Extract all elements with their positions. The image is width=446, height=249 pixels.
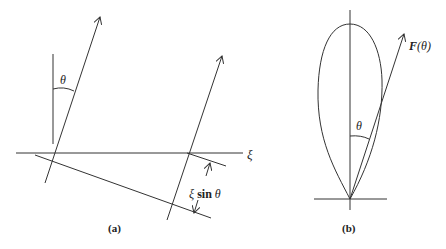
offset-sin: sin: [197, 187, 212, 201]
theta-label-b: θ: [356, 120, 362, 132]
wavefront-line: [35, 155, 211, 218]
F-argument: (θ): [417, 39, 431, 53]
dimension-arrow-up: [206, 163, 210, 176]
offset-label: ξ sin θ: [189, 188, 221, 200]
theta-arc-b: [350, 136, 369, 139]
wavefront-parallel-segment: [187, 153, 226, 166]
caption-a: (a): [108, 223, 121, 234]
F-theta-label: F(θ): [409, 40, 431, 52]
diagram-root: θ ξ ξ sin θ (a) θ F(θ) (b): [0, 0, 446, 249]
offset-xi: ξ: [189, 187, 194, 201]
xi-axis-label: ξ: [247, 148, 253, 161]
theta-label-a: θ: [60, 74, 66, 86]
offset-theta: θ: [215, 187, 221, 201]
F-theta-ray: [350, 34, 404, 199]
theta-arc-a: [53, 88, 74, 91]
dimension-arrow-down: [194, 200, 198, 213]
diagram-canvas: [0, 0, 446, 249]
F-symbol: F: [409, 39, 417, 53]
caption-b: (b): [342, 223, 355, 234]
